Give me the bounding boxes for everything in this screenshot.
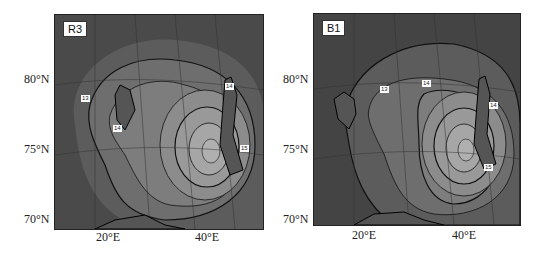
lat-label-80n: 80°N	[24, 72, 49, 87]
contour-label: 14	[489, 102, 498, 109]
lon-label-40e: 40°E	[195, 230, 219, 245]
contour-label: 15	[240, 145, 249, 152]
contour-label: 14	[225, 83, 234, 90]
contour-label: 14	[113, 125, 122, 132]
contour-label: 14	[422, 80, 431, 87]
contour-label: 13	[81, 95, 90, 102]
panel-label: B1	[322, 20, 345, 36]
panel-label: R3	[63, 21, 87, 37]
lat-label-80n: 80°N	[283, 72, 308, 87]
contour-label: 15	[484, 164, 493, 171]
lon-label-20e: 20°E	[352, 228, 376, 243]
lat-label-70n: 70°N	[283, 212, 308, 227]
lon-label-40e: 40°E	[452, 228, 476, 243]
lat-label-75n: 75°N	[24, 142, 49, 157]
map-frame: B1 13 14 14 15	[313, 13, 521, 226]
map-frame: R3 13 14 14 15	[54, 14, 264, 230]
lat-label-70n: 70°N	[24, 212, 49, 227]
lon-label-20e: 20°E	[96, 230, 120, 245]
contour-map	[314, 14, 520, 225]
contour-map	[55, 15, 263, 229]
lat-label-75n: 75°N	[283, 142, 308, 157]
contour-label: 13	[380, 86, 389, 93]
